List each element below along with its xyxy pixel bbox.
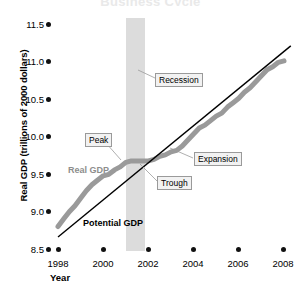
real-gdp-label-line1: Real GDP xyxy=(68,165,109,175)
business-cycle-chart: Business Cycle Real GDP (trillions of 20… xyxy=(0,0,301,292)
recession-callout: Recession xyxy=(155,73,203,87)
recession-leader-line xyxy=(138,70,155,78)
peak-callout: Peak xyxy=(85,133,112,147)
expansion-callout: Expansion xyxy=(194,152,242,166)
trough-callout: Trough xyxy=(157,176,192,190)
trough-leader-line xyxy=(140,164,157,181)
real-gdp-series-label: Real GDP xyxy=(68,165,109,175)
plot-area xyxy=(0,0,301,292)
potential-gdp-label-line1: Potential GDP xyxy=(83,218,143,228)
potential-gdp-series-label: Potential GDP xyxy=(83,218,143,228)
